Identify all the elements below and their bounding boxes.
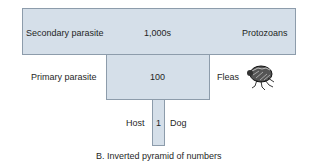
- diagram-caption: B. Inverted pyramid of numbers: [96, 151, 222, 162]
- host-count: 1: [156, 118, 161, 129]
- flea-icon: [241, 63, 277, 91]
- host-organism: Dog: [170, 118, 187, 129]
- host-label: Host: [126, 118, 145, 129]
- secondary-parasite-count: 1,000s: [144, 28, 171, 39]
- primary-parasite-organism: Fleas: [217, 72, 239, 83]
- primary-parasite-count: 100: [150, 72, 165, 83]
- primary-parasite-label: Primary parasite: [31, 72, 97, 83]
- secondary-parasite-label: Secondary parasite: [26, 28, 104, 39]
- secondary-parasite-organism: Protozoans: [242, 28, 288, 39]
